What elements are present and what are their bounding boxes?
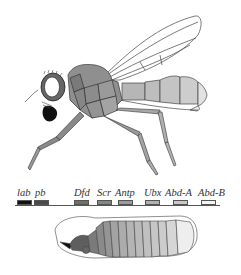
gene-box-antp: [118, 200, 133, 205]
gene-box-pb: [34, 200, 49, 205]
gene-box-dfd: [74, 200, 89, 205]
gene-box-ubx: [145, 200, 160, 205]
gene-box-abd-b: [201, 200, 216, 205]
abdomen: [122, 76, 207, 111]
gene-box-abd-a: [173, 200, 188, 205]
gene-label-dfd: Dfd: [74, 187, 90, 199]
gene-label-pb: pb: [35, 187, 46, 199]
gene-label-lab: lab: [17, 187, 30, 199]
embryo: [55, 216, 197, 258]
gene-label-scr: Scr: [97, 187, 111, 199]
fly-diagram: [0, 0, 241, 275]
head: [25, 70, 65, 121]
chromosome-line: [15, 205, 220, 206]
gene-label-abd-a: Abd-A: [165, 187, 192, 199]
gene-box-lab: [17, 200, 32, 205]
wing: [100, 16, 201, 80]
gene-box-scr: [97, 200, 112, 205]
gene-label-antp: Antp: [115, 187, 135, 199]
gene-label-ubx: Ubx: [144, 187, 162, 199]
gene-label-abd-b: Abd-B: [198, 187, 225, 199]
